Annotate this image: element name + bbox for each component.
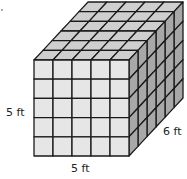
front-cube-face [53,79,72,98]
front-cube-face [91,60,110,79]
front-cube-face [91,118,110,137]
front-cube-face [72,79,91,98]
front-cube-face [34,98,53,117]
front-cube-face [53,137,72,156]
stray-dot [1,9,3,11]
front-cube-face [110,60,129,79]
front-cube-face [72,137,91,156]
front-cube-face [110,79,129,98]
front-cube-face [110,98,129,117]
front-cube-face [72,98,91,117]
front-cube-face [72,118,91,137]
front-cube-face [34,79,53,98]
depth-label: 6 ft [163,125,182,138]
front-cube-face [91,98,110,117]
front-cube-face [34,60,53,79]
front-cube-face [34,137,53,156]
rectangular-prism-diagram: 5 ft 5 ft 6 ft [0,0,187,179]
front-cube-face [91,79,110,98]
front-cube-face [72,60,91,79]
front-cube-face [34,118,53,137]
height-label: 5 ft [6,106,25,119]
front-cube-face [110,137,129,156]
front-cube-face [53,118,72,137]
front-cube-face [53,60,72,79]
front-cube-face [53,98,72,117]
width-label: 5 ft [71,162,90,175]
front-cube-face [110,118,129,137]
front-cube-face [91,137,110,156]
